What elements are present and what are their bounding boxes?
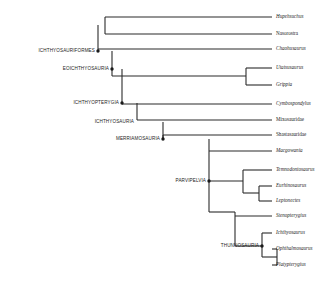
taxon-label-cymbospondylus: Cymbospondylus (276, 100, 311, 106)
taxon-label-leptonectes: Leptonectes (275, 197, 300, 203)
taxon-label-platypterygius: Platypterygius (275, 261, 306, 267)
node-dot-ichthyosauriformes (96, 49, 99, 52)
taxon-label-stenopterygius: Stenopterygius (276, 212, 306, 218)
taxon-label-ichthyosaurus: Ichthyosaurus (275, 229, 305, 235)
clade-label-ichthyosauria: ICHTHYOSAURIA (95, 119, 135, 124)
taxon-label-shastasauridae: Shastasauridae (276, 131, 307, 137)
clade-labels-group: ICHTHYOSAURIFORMESEOICHTHYOSAURIAICHTHYO… (38, 48, 259, 248)
node-dot-eoichthyosauria (110, 67, 113, 70)
clade-label-parvipelvia: PARVIPELVIA (176, 178, 207, 183)
taxon-label-nasorostra: Nasorostra (276, 30, 299, 36)
taxon-labels-group: HupehsuchusNasorostraChaohusaurusUtatsus… (275, 13, 315, 267)
clade-label-eoichthyosauria: EOICHTHYOSAURIA (63, 66, 110, 71)
taxon-label-hupehsuchus: Hupehsuchus (275, 13, 303, 19)
taxon-label-chaohusaurus: Chaohusaurus (276, 45, 306, 51)
node-dots-group (96, 49, 263, 247)
taxon-label-macgowania: Macgowania (275, 147, 303, 153)
taxon-label-eurhinosaurus: Eurhinosaurus (275, 182, 306, 188)
clade-label-ichthyosauriformes: ICHTHYOSAURIFORMES (38, 48, 95, 53)
clade-label-merriamosauria: MERRIAMOSAURIA (116, 136, 161, 141)
taxon-label-grippia: Grippia (276, 81, 293, 87)
taxon-label-ophthalmosaurus: Ophthalmosaurus (276, 245, 313, 251)
node-dot-parvipelvia (207, 179, 210, 182)
taxon-label-utatsusaurus: Utatsusaurus (276, 64, 303, 70)
taxon-label-temnodontosaurus: Temnodontosaurus (276, 166, 315, 172)
clade-label-thunnosauria: THUNNOSAURIA (221, 243, 260, 248)
taxon-label-mixosauridae: Mixosauridae (276, 116, 305, 122)
node-dot-thunnosauria (260, 244, 263, 247)
phylogenetic-tree: HupehsuchusNasorostraChaohusaurusUtatsus… (0, 0, 332, 281)
clade-label-ichthyopterygia: ICHTHYOPTERYGIA (73, 100, 119, 105)
cladogram-figure: HupehsuchusNasorostraChaohusaurusUtatsus… (0, 0, 332, 281)
node-dot-merriamosauria (161, 137, 164, 140)
node-dot-ichthyopterygia (120, 101, 123, 104)
